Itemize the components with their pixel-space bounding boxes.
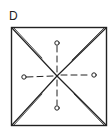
marker-left: [22, 75, 26, 79]
diagonal-bottom-right: [57, 76, 106, 125]
marker-top: [55, 41, 59, 45]
diagonal-top-right: [57, 28, 106, 76]
marker-right: [92, 73, 96, 77]
marker-bottom: [55, 106, 59, 110]
diagonal-top-left: [12, 28, 57, 76]
diagonal-bottom-left: [12, 76, 57, 125]
folded-square-diagram: [0, 0, 111, 135]
